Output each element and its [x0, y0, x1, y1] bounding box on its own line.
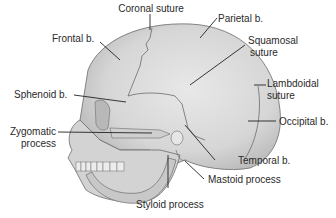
- label-zygomatic-process-1: Zygomatic: [4, 126, 56, 137]
- label-styloid-process: Styloid process: [136, 199, 204, 210]
- label-sphenoid-bone: Sphenoid b.: [14, 89, 67, 100]
- orbit: [95, 100, 110, 130]
- label-mastoid-process: Mastoid process: [208, 174, 281, 185]
- label-lambdoidal-suture-2: suture: [267, 90, 295, 101]
- label-squamosal-suture-1: Squamosal: [248, 35, 298, 46]
- label-zygomatic-process-2: process: [4, 138, 56, 149]
- teeth: [76, 162, 124, 171]
- label-squamosal-suture-2: suture: [250, 47, 278, 58]
- label-temporal-bone: Temporal b.: [238, 155, 290, 166]
- label-occipital-bone: Occipital b.: [279, 116, 328, 127]
- label-coronal-suture: Coronal suture: [112, 3, 190, 14]
- label-frontal-bone: Frontal b.: [52, 33, 94, 44]
- label-parietal-bone: Parietal b.: [218, 13, 263, 24]
- ear-canal: [171, 131, 183, 145]
- label-lambdoidal-suture-1: Lambdoidal: [267, 78, 319, 89]
- skull-diagram: Coronal suture Frontal b. Parietal b. Sq…: [0, 0, 336, 218]
- skull-illustration: [0, 0, 336, 218]
